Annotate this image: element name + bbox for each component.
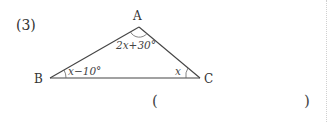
angle-arc-a bbox=[131, 32, 148, 37]
vertex-label-a: A bbox=[132, 9, 142, 23]
angle-arc-b bbox=[64, 70, 66, 78]
vertex-label-c: C bbox=[204, 72, 213, 86]
angle-label-b: x−10° bbox=[68, 65, 101, 77]
page-edge-divider bbox=[326, 0, 327, 122]
problem-canvas: (3) A B C 2x+30° x−10° x ( ) bbox=[0, 0, 329, 122]
answer-open-paren: ( bbox=[152, 92, 158, 110]
vertex-label-b: B bbox=[34, 72, 43, 86]
angle-label-c: x bbox=[175, 65, 181, 77]
answer-close-paren: ) bbox=[304, 92, 310, 110]
angle-arc-c bbox=[186, 68, 188, 78]
answer-blank[interactable] bbox=[165, 94, 301, 112]
side-ac bbox=[139, 27, 200, 78]
angle-label-a: 2x+30° bbox=[115, 39, 156, 51]
